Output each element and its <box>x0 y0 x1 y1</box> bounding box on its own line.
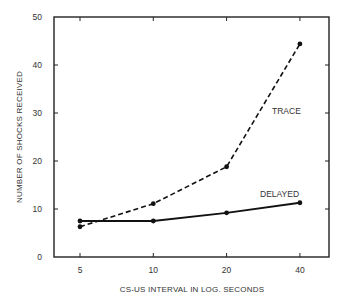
y-axis-title: NUMBER OF SHOCKS RECEIVED <box>15 71 24 203</box>
series-label-delayed: DELAYED <box>260 189 299 199</box>
x-tick-label: 20 <box>222 265 232 275</box>
y-tick-label: 30 <box>33 108 43 118</box>
x-axis-title: CS-US INTERVAL IN LOG. SECONDS <box>120 285 265 294</box>
y-axis-ticks: 01020304050 <box>33 12 329 262</box>
data-point <box>224 210 229 215</box>
data-point <box>151 201 156 206</box>
line-chart: 01020304050 5102040 CS-US INTERVAL IN LO… <box>0 0 341 303</box>
series-label-trace: TRACE <box>272 106 301 116</box>
y-tick-label: 20 <box>33 156 43 166</box>
y-tick-label: 40 <box>33 60 43 70</box>
data-point <box>298 41 303 46</box>
series-line-delayed <box>80 203 300 221</box>
data-series <box>78 41 303 229</box>
data-point <box>224 164 229 169</box>
y-tick-label: 10 <box>33 204 43 214</box>
data-point <box>78 219 83 224</box>
data-point <box>151 219 156 224</box>
x-tick-label: 10 <box>149 265 159 275</box>
y-tick-label: 0 <box>37 252 42 262</box>
x-tick-label: 5 <box>78 265 83 275</box>
series-line-trace <box>80 44 300 227</box>
x-tick-label: 40 <box>295 265 305 275</box>
x-axis-ticks: 5102040 <box>78 17 305 275</box>
data-point <box>78 224 83 229</box>
data-point <box>298 200 303 205</box>
y-tick-label: 50 <box>33 12 43 22</box>
